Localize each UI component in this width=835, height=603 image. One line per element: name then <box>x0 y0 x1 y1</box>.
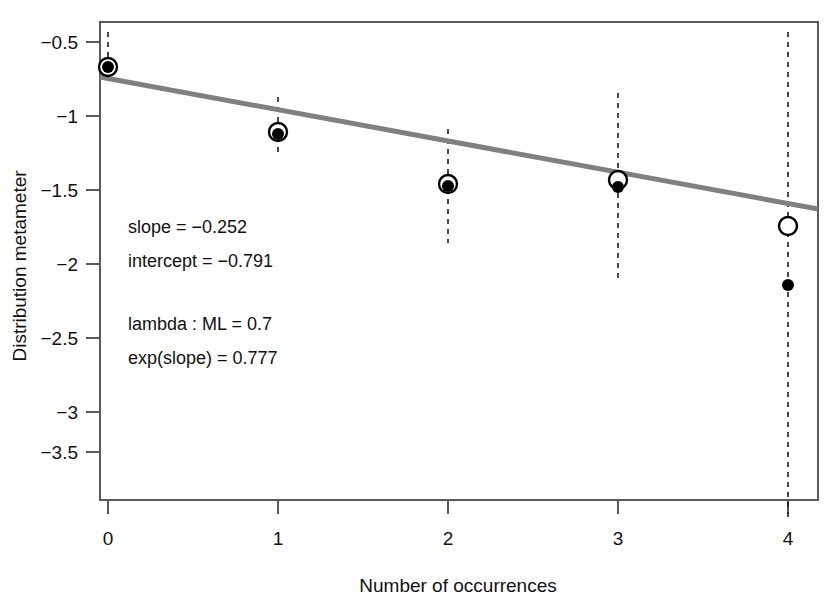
y-tick-label: −2.5 <box>40 328 78 349</box>
annotation-lambda: lambda : ML = 0.7 <box>128 314 272 334</box>
x-tick-label: 4 <box>783 528 794 549</box>
x-tick-label: 1 <box>273 528 284 549</box>
filled-circle-marker <box>102 61 114 73</box>
y-tick-label: −1 <box>56 106 78 127</box>
annotation-intercept: intercept = −0.791 <box>128 251 273 271</box>
x-tick-label: 0 <box>103 528 114 549</box>
y-tick-label: −2 <box>56 254 78 275</box>
x-tick-label: 3 <box>613 528 624 549</box>
annotation-slope: slope = −0.252 <box>128 217 247 237</box>
y-tick-label: −0.5 <box>40 32 78 53</box>
filled-circle-marker <box>272 128 284 140</box>
y-tick-label: −1.5 <box>40 180 78 201</box>
y-axis-title: Distribution metameter <box>9 170 30 362</box>
x-axis-title: Number of occurrences <box>359 575 556 596</box>
filled-circle-marker <box>782 279 794 291</box>
filled-circle-marker <box>612 181 624 193</box>
scatter-plot-figure: −0.5 −1 −1.5 −2 −2.5 −3 −3.5 0 1 2 3 4 N… <box>0 0 835 603</box>
y-tick-label: −3.5 <box>40 442 78 463</box>
open-circle-marker <box>779 217 797 235</box>
y-tick-label: −3 <box>56 402 78 423</box>
filled-circle-marker <box>442 180 454 192</box>
annotation-expslope: exp(slope) = 0.777 <box>128 348 278 368</box>
x-tick-label: 2 <box>443 528 454 549</box>
figure-background <box>0 0 835 603</box>
